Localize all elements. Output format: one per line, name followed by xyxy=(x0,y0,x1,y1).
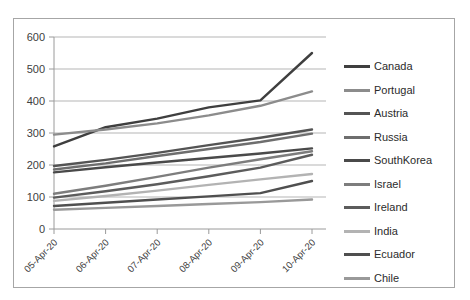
legend-item-label: Austria xyxy=(374,108,408,119)
legend-item-russia[interactable]: Russia xyxy=(344,126,462,150)
legend-swatch-icon xyxy=(344,230,370,233)
legend-swatch-icon xyxy=(344,253,370,256)
legend-swatch-icon xyxy=(344,183,370,186)
legend-item-label: Canada xyxy=(374,61,413,72)
legend-item-label: Russia xyxy=(374,132,408,143)
legend-item-canada[interactable]: Canada xyxy=(344,55,462,79)
y-axis-tick-label: 200 xyxy=(27,159,45,171)
y-axis-tick-label: 0 xyxy=(39,223,45,235)
y-axis-tick-label: 300 xyxy=(27,127,45,139)
x-axis-tick-label: 05-Apr-20 xyxy=(22,237,60,275)
legend-item-ecuador[interactable]: Ecuador xyxy=(344,243,462,267)
legend-item-label: Chile xyxy=(374,273,399,284)
legend-item-ireland[interactable]: Ireland xyxy=(344,196,462,220)
legend-swatch-icon xyxy=(344,159,370,162)
legend-swatch-icon xyxy=(344,112,370,115)
chart-legend: CanadaPortugalAustriaRussiaSouthKoreaIsr… xyxy=(344,55,462,290)
x-axis-tick-label: 07-Apr-20 xyxy=(125,237,163,275)
y-axis-tick-label: 400 xyxy=(27,95,45,107)
legend-swatch-icon xyxy=(344,206,370,209)
legend-item-israel[interactable]: Israel xyxy=(344,173,462,197)
legend-item-southkorea[interactable]: SouthKorea xyxy=(344,149,462,173)
legend-item-portugal[interactable]: Portugal xyxy=(344,79,462,103)
legend-swatch-icon xyxy=(344,136,370,139)
x-axis-tick-label: 06-Apr-20 xyxy=(73,237,111,275)
x-axis-tick-label: 08-Apr-20 xyxy=(177,237,215,275)
legend-item-austria[interactable]: Austria xyxy=(344,102,462,126)
legend-item-chile[interactable]: Chile xyxy=(344,267,462,291)
x-axis-tick-label: 10-Apr-20 xyxy=(280,237,318,275)
legend-item-label: Ireland xyxy=(374,202,408,213)
chart-frame: 010020030040050060005-Apr-2006-Apr-2007-… xyxy=(13,18,455,288)
legend-swatch-icon xyxy=(344,277,370,280)
x-axis-tick-label: 09-Apr-20 xyxy=(228,237,266,275)
y-axis-tick-label: 600 xyxy=(27,31,45,43)
legend-item-label: Ecuador xyxy=(374,249,415,260)
legend-item-label: Israel xyxy=(374,179,401,190)
y-axis-tick-label: 500 xyxy=(27,63,45,75)
legend-item-label: SouthKorea xyxy=(374,155,432,166)
series-line-canada xyxy=(54,53,312,146)
legend-item-india[interactable]: India xyxy=(344,220,462,244)
legend-swatch-icon xyxy=(344,89,370,92)
legend-item-label: India xyxy=(374,226,398,237)
y-axis-tick-label: 100 xyxy=(27,191,45,203)
legend-item-label: Portugal xyxy=(374,85,415,96)
legend-swatch-icon xyxy=(344,65,370,68)
